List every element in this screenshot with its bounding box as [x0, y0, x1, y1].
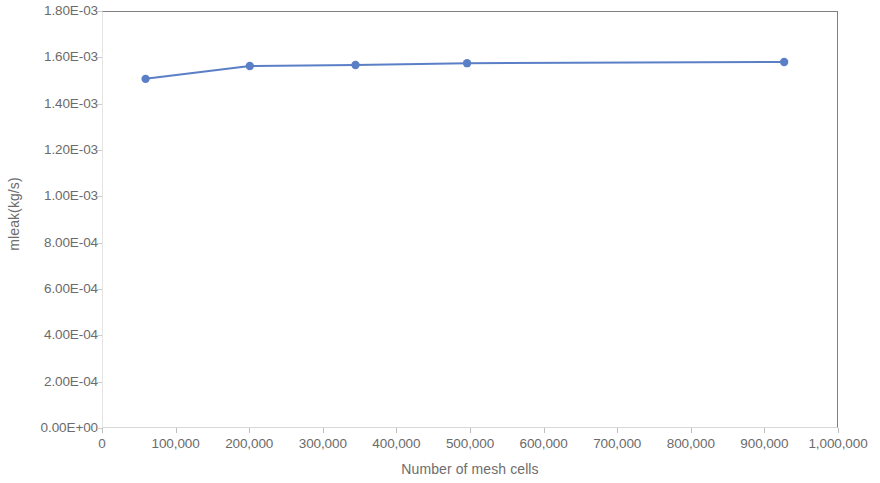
- y-axis-tick-mark: [97, 335, 102, 336]
- x-axis-tick-label: 800,000: [667, 437, 715, 451]
- x-axis-tick-mark: [764, 428, 765, 433]
- x-axis-tick-labels: 0100,000200,000300,000400,000500,000600,…: [0, 437, 880, 457]
- x-axis-title: Number of mesh cells: [102, 461, 838, 477]
- x-axis-tick-mark: [249, 428, 250, 433]
- y-axis-tick-mark: [97, 243, 102, 244]
- y-axis-tick-mark: [97, 150, 102, 151]
- data-point-marker: [463, 59, 471, 67]
- data-point-marker: [246, 62, 254, 70]
- x-axis-tick-label: 0: [98, 437, 105, 451]
- y-axis-tick-mark: [97, 382, 102, 383]
- x-axis-tick-label: 500,000: [446, 437, 494, 451]
- x-axis-tick-mark: [838, 428, 839, 433]
- y-axis-tick-label: 1.80E-03: [24, 4, 98, 18]
- y-axis-tick-labels: 0.00E+002.00E-044.00E-046.00E-048.00E-04…: [22, 0, 98, 483]
- x-axis-tick-label: 900,000: [740, 437, 788, 451]
- y-axis-title-text: mleak(kg/s): [6, 177, 22, 250]
- plot-area: [102, 11, 838, 428]
- y-axis-tick-label: 1.20E-03: [24, 143, 98, 157]
- x-axis-tick-label: 100,000: [152, 437, 200, 451]
- x-axis-tick-label: 600,000: [520, 437, 568, 451]
- y-axis-tick-mark: [97, 196, 102, 197]
- y-axis-tick-label: 8.00E-04: [24, 236, 98, 250]
- chart-container: mleak(kg/s) 0.00E+002.00E-044.00E-046.00…: [0, 0, 880, 483]
- data-point-marker: [351, 61, 359, 69]
- x-axis-tick-mark: [470, 428, 471, 433]
- series-line-chart: [103, 12, 837, 427]
- x-axis-tick-mark: [617, 428, 618, 433]
- x-axis-tick-label: 300,000: [299, 437, 347, 451]
- data-point-marker: [141, 75, 149, 83]
- x-axis-tick-mark: [323, 428, 324, 433]
- x-axis-tick-mark: [691, 428, 692, 433]
- y-axis-tick-label: 4.00E-04: [24, 329, 98, 343]
- x-axis-tick-label: 1,000,000: [808, 437, 867, 451]
- y-axis-tick-label: 1.00E-03: [24, 190, 98, 204]
- x-axis-tick-label: 400,000: [372, 437, 420, 451]
- x-axis-tick-label: 700,000: [593, 437, 641, 451]
- y-axis-tick-mark: [97, 104, 102, 105]
- y-axis-tick-label: 1.60E-03: [24, 51, 98, 65]
- y-axis-tick-label: 1.40E-03: [24, 97, 98, 111]
- y-axis-tick-label: 2.00E-04: [24, 375, 98, 389]
- y-axis-tick-mark: [97, 289, 102, 290]
- y-axis-tick-label: 6.00E-04: [24, 282, 98, 296]
- y-axis-tick-mark: [97, 11, 102, 12]
- x-axis-tick-mark: [544, 428, 545, 433]
- x-axis-tick-mark: [176, 428, 177, 433]
- x-axis-tick-label: 200,000: [225, 437, 273, 451]
- data-point-marker: [780, 58, 788, 66]
- y-axis-tick-mark: [97, 57, 102, 58]
- x-axis-tick-mark: [396, 428, 397, 433]
- x-axis-tick-mark: [102, 428, 103, 433]
- y-axis-tick-label: 0.00E+00: [24, 421, 98, 435]
